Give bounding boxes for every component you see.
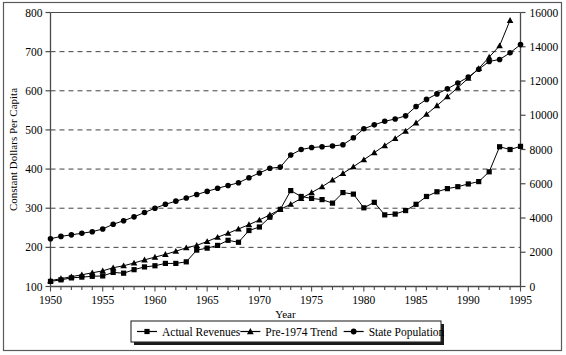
marker-circle bbox=[215, 185, 221, 191]
x-tick-label: 1975 bbox=[300, 294, 323, 306]
marker-square bbox=[215, 243, 220, 248]
marker-square bbox=[246, 228, 251, 233]
marker-circle bbox=[236, 180, 242, 186]
marker-triangle bbox=[371, 149, 378, 155]
marker-square bbox=[351, 192, 356, 197]
marker-square bbox=[205, 246, 210, 251]
marker-circle bbox=[330, 143, 336, 149]
y-tick-label-left: 800 bbox=[25, 7, 43, 19]
y-tick-label-right: 8000 bbox=[530, 144, 553, 156]
marker-triangle bbox=[308, 189, 315, 195]
series-line bbox=[51, 45, 521, 239]
x-tick-label: 1995 bbox=[509, 294, 532, 306]
series-pre-1974-trend bbox=[47, 17, 513, 283]
marker-square bbox=[100, 273, 105, 278]
marker-circle bbox=[298, 147, 304, 153]
series-state-population bbox=[48, 42, 524, 242]
marker-triangle bbox=[329, 177, 336, 183]
tick-marks bbox=[46, 13, 526, 292]
marker-triangle bbox=[496, 42, 503, 48]
marker-circle bbox=[225, 183, 231, 189]
marker-circle bbox=[403, 113, 409, 119]
marker-square bbox=[466, 181, 471, 186]
marker-circle bbox=[497, 57, 503, 63]
marker-square bbox=[403, 208, 408, 213]
marker-circle bbox=[194, 192, 200, 198]
marker-triangle bbox=[267, 212, 274, 218]
marker-circle bbox=[257, 170, 263, 176]
legend-label: Pre-1974 Trend bbox=[265, 326, 337, 338]
x-tick-label: 1990 bbox=[457, 294, 480, 306]
marker-circle bbox=[173, 198, 179, 204]
x-tick-label: 1950 bbox=[39, 294, 62, 306]
x-tick-label: 1970 bbox=[248, 294, 271, 306]
marker-circle bbox=[183, 195, 189, 201]
marker-triangle bbox=[319, 183, 326, 189]
marker-triangle bbox=[381, 142, 388, 148]
marker-triangle bbox=[507, 17, 514, 23]
y-tick-label-right: 0 bbox=[530, 281, 536, 293]
marker-triangle bbox=[204, 238, 211, 244]
marker-circle bbox=[465, 74, 471, 80]
y-tick-label-right: 16000 bbox=[530, 7, 559, 19]
y-tick-label-left: 200 bbox=[25, 241, 43, 253]
axes bbox=[51, 13, 521, 287]
marker-square bbox=[393, 211, 398, 216]
marker-square bbox=[131, 267, 136, 272]
y-tick-label-left: 400 bbox=[25, 163, 43, 175]
gridlines bbox=[51, 13, 521, 248]
marker-square bbox=[152, 263, 157, 268]
y-tick-label-right: 2000 bbox=[530, 246, 553, 258]
marker-triangle bbox=[392, 135, 399, 141]
marker-circle bbox=[382, 119, 388, 125]
x-axis-title: Year bbox=[275, 308, 296, 320]
marker-circle bbox=[288, 152, 294, 158]
data-series bbox=[47, 17, 523, 284]
marker-square bbox=[372, 200, 377, 205]
marker-triangle bbox=[256, 217, 263, 223]
x-tick-label: 1955 bbox=[91, 294, 114, 306]
marker-circle bbox=[246, 175, 252, 181]
marker-circle bbox=[351, 135, 357, 141]
marker-square bbox=[144, 329, 149, 334]
marker-square bbox=[173, 261, 178, 266]
marker-circle bbox=[277, 164, 283, 170]
marker-triangle bbox=[287, 201, 294, 207]
marker-circle bbox=[371, 122, 377, 128]
marker-triangle bbox=[350, 163, 357, 169]
x-tick-label: 1980 bbox=[352, 294, 375, 306]
marker-circle bbox=[309, 145, 315, 151]
y-tick-label-right: 4000 bbox=[530, 212, 553, 224]
marker-circle bbox=[351, 329, 357, 335]
marker-square bbox=[163, 261, 168, 266]
marker-square bbox=[257, 224, 262, 229]
marker-circle bbox=[361, 126, 367, 132]
marker-circle bbox=[424, 97, 430, 103]
marker-circle bbox=[69, 232, 75, 238]
marker-square bbox=[361, 205, 366, 210]
marker-circle bbox=[340, 142, 346, 148]
marker-circle bbox=[476, 66, 482, 72]
marker-circle bbox=[267, 165, 273, 171]
chart-canvas: 1002003004005006007008000200040006000800… bbox=[0, 0, 566, 355]
marker-circle bbox=[507, 50, 513, 56]
series-line bbox=[51, 20, 511, 280]
x-tick-label: 1985 bbox=[405, 294, 428, 306]
marker-square bbox=[288, 188, 293, 193]
y-tick-label-left: 100 bbox=[25, 281, 43, 293]
chart-legend: Actual RevenuesPre-1974 TrendState Popul… bbox=[131, 321, 445, 345]
y-axis-title: Constant Dollars Per Capita bbox=[7, 88, 19, 211]
marker-triangle bbox=[235, 226, 242, 232]
marker-circle bbox=[89, 229, 95, 235]
legend-label: State Population bbox=[369, 326, 445, 339]
marker-circle bbox=[79, 230, 85, 236]
marker-circle bbox=[319, 144, 325, 150]
y-tick-label-left: 700 bbox=[25, 46, 43, 58]
marker-square bbox=[413, 202, 418, 207]
marker-square bbox=[309, 196, 314, 201]
marker-triangle bbox=[225, 230, 232, 236]
marker-circle bbox=[121, 218, 127, 224]
marker-square bbox=[121, 271, 126, 276]
marker-square bbox=[445, 186, 450, 191]
marker-circle bbox=[413, 104, 419, 110]
